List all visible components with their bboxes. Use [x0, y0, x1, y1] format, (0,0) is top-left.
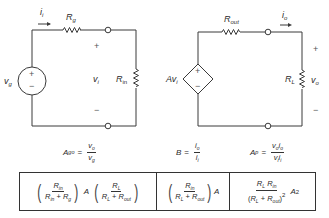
source-resistor-rg [63, 28, 81, 33]
output-terminal-bottom [265, 123, 271, 129]
wire-dep-bottom [198, 94, 302, 126]
rout-label: Rout [224, 15, 239, 25]
vg-plus-sign: + [29, 70, 34, 79]
rin-label: Rin [116, 75, 127, 85]
vo-plus-sign: + [313, 45, 318, 54]
gain-formula-table: ( RinRin + Rg ) A ( RLRL + Rout ) ( RinR… [19, 172, 316, 211]
vi-minus-sign: − [94, 106, 99, 115]
vg-label: vg [4, 77, 12, 87]
current-ii-label: ii [40, 8, 43, 18]
dependent-source-label: Avi [166, 75, 178, 85]
vg-minus-sign: − [29, 82, 34, 91]
dep-minus-sign: − [195, 82, 200, 91]
voltage-gain-formula: ( RinRin + Rg ) A ( RLRL + Rout ) [20, 173, 156, 210]
vi-plus-sign: + [94, 42, 99, 51]
vi-label: vi [93, 75, 99, 85]
load-resistor-rl [300, 70, 305, 88]
input-terminal-top [105, 27, 111, 33]
rg-label: Rg [66, 13, 76, 23]
output-terminal-top [265, 29, 271, 35]
current-io-label: io [282, 11, 287, 21]
dep-plus-sign: + [195, 67, 200, 76]
wire-left-source-bottom [32, 95, 136, 126]
output-resistor-rout [222, 30, 240, 35]
vo-label: vo [311, 76, 319, 86]
vo-minus-sign: − [313, 106, 318, 115]
power-gain-formula: RL Rin(RL + Rout)2 A2 [229, 173, 315, 210]
power-gain-definition: Ap = voioviii [250, 142, 286, 162]
current-gain-definition: B = ioii [176, 142, 202, 162]
input-resistor-rin [134, 69, 139, 87]
input-terminal-bottom [105, 123, 111, 129]
voltage-gain-definition: Ago = vovg [63, 142, 98, 162]
rl-label: RL [285, 75, 295, 85]
current-gain-formula: ( RinRL + Rout ) A [156, 173, 229, 210]
